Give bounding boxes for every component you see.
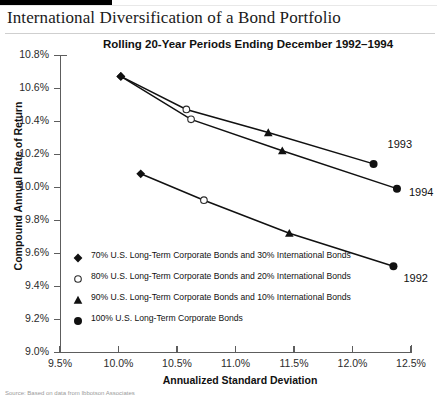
data-point-diamond	[74, 254, 83, 263]
legend-label: 90% U.S. Long-Term Corporate Bonds and 1…	[91, 292, 351, 302]
series-label-1994: 1994	[409, 186, 433, 198]
legend-item: 100% U.S. Long-Term Corporate Bonds	[72, 311, 372, 332]
source-footnote: Source: Based on data from Ibbotson Asso…	[5, 390, 435, 396]
legend-label: 80% U.S. Long-Term Corporate Bonds and 2…	[91, 271, 351, 281]
legend: 70% U.S. Long-Term Corporate Bonds and 3…	[72, 248, 372, 332]
legend-marker-circle-open	[72, 273, 84, 285]
series-1993	[116, 72, 377, 168]
series-label-1992: 1992	[403, 272, 427, 284]
data-point-circle-filled	[370, 160, 378, 168]
data-point-diamond	[116, 72, 125, 81]
chart-page: International Diversification of a Bond …	[0, 0, 437, 398]
data-point-circle-filled	[393, 185, 401, 193]
series-1994	[116, 72, 401, 193]
series-line	[121, 76, 374, 163]
data-point-diamond	[136, 169, 145, 178]
series-plot	[0, 0, 437, 398]
data-point-circle-open	[183, 106, 190, 113]
legend-label: 100% U.S. Long-Term Corporate Bonds	[91, 313, 243, 323]
legend-marker-triangle	[72, 294, 84, 306]
legend-marker-circle-filled	[72, 315, 84, 327]
data-point-circle-filled	[74, 317, 82, 325]
data-point-circle-filled	[389, 262, 397, 270]
data-point-triangle	[285, 229, 294, 237]
legend-marker-diamond	[72, 252, 84, 264]
data-point-triangle	[74, 296, 83, 304]
data-point-circle-open	[201, 197, 208, 204]
data-point-circle-open	[188, 116, 195, 123]
series-line	[121, 76, 397, 188]
legend-item: 80% U.S. Long-Term Corporate Bonds and 2…	[72, 269, 372, 290]
legend-item: 70% U.S. Long-Term Corporate Bonds and 3…	[72, 248, 372, 269]
series-label-1993: 1993	[388, 138, 412, 150]
legend-item: 90% U.S. Long-Term Corporate Bonds and 1…	[72, 290, 372, 311]
data-point-circle-open	[75, 276, 82, 283]
legend-label: 70% U.S. Long-Term Corporate Bonds and 3…	[91, 250, 351, 260]
